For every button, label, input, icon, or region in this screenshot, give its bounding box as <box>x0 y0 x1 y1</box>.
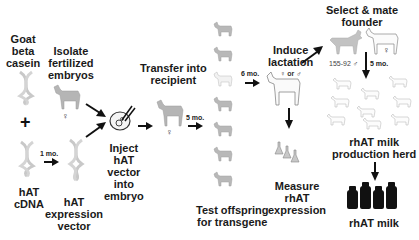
label-line: Test offspring <box>196 204 269 216</box>
plus-sign: + <box>20 112 31 133</box>
dna-helix-icon <box>66 140 86 180</box>
label-line: cDNA <box>14 198 44 210</box>
label-line: Measure <box>268 180 326 192</box>
arrow-right-icon <box>188 122 204 130</box>
duration-label: 5 mo. <box>186 114 204 121</box>
label-rhat-milk: rhAT milk <box>349 217 399 229</box>
label-line: production herd <box>332 148 416 160</box>
label-line: Select & mate <box>326 4 398 16</box>
duration-label: 1 mo. <box>40 150 58 157</box>
flask-icons <box>274 142 304 164</box>
arrow-down-icon <box>370 162 380 182</box>
label-line: hAT <box>104 154 144 166</box>
label-test-offspring: Test offspring for transgene <box>196 204 269 228</box>
milk-bottle-icon <box>347 190 358 209</box>
label-line: embryo <box>104 190 144 202</box>
label-line: recipient <box>140 74 207 86</box>
label-line: Goat <box>6 33 40 45</box>
label-line: rhAT <box>268 192 326 204</box>
arrow-right-icon <box>138 122 154 130</box>
founder-buck-icon <box>328 28 364 58</box>
dna-helix-icon <box>17 142 37 176</box>
arrow-right-icon <box>44 158 60 166</box>
dna-helix-icon <box>16 72 36 104</box>
label-line: vector <box>104 166 144 178</box>
duration-label: 6 mo. <box>241 70 259 77</box>
label-line: founder <box>326 16 398 28</box>
milk-bottle-icon <box>360 186 371 209</box>
label-line: Inject <box>104 142 144 154</box>
embryo-injection-icon <box>108 104 136 132</box>
label-line: into <box>104 178 144 190</box>
label-line: Isolate <box>48 45 94 57</box>
arrow-down-icon <box>284 108 294 130</box>
milk-bottle-icon <box>373 190 384 209</box>
label-hat-cdna: hAT cDNA <box>14 186 44 210</box>
label-production-herd: rhAT milk production herd <box>332 136 416 160</box>
duration-label: 5 mo. <box>370 60 388 67</box>
arrow-up-right-icon <box>86 122 108 138</box>
female-symbol: ♀ <box>62 111 69 121</box>
arrow-up-right-icon <box>302 46 324 64</box>
arrow-down-right-icon <box>86 104 108 118</box>
label-line: embryos <box>48 69 94 81</box>
label-line: rhAT milk <box>332 136 416 148</box>
goat-icon <box>52 85 82 111</box>
label-goat-beta-casein: Goat beta casein <box>6 33 40 69</box>
recipient-goat-icon <box>155 100 185 128</box>
milk-bottle-icon <box>386 186 397 209</box>
label-measure: Measure rhAT expression <box>268 180 326 216</box>
label-line: vector <box>45 220 103 232</box>
label-line: expression <box>268 204 326 216</box>
label-line: casein <box>6 57 40 69</box>
offspring-goats-icon <box>212 22 234 202</box>
label-isolate-embryos: Isolate fertilized embryos <box>48 45 94 81</box>
production-herd-icons <box>330 76 419 128</box>
label-line: beta <box>6 45 40 57</box>
label-line: hAT <box>14 186 44 198</box>
label-line: Transfer into <box>140 62 207 74</box>
label-select-mate: Select & mate founder <box>326 4 398 28</box>
label-line: fertilized <box>48 57 94 69</box>
female-symbol: ♀ <box>383 45 390 55</box>
label-inject: Inject hAT vector into embryo <box>104 142 144 202</box>
female-symbol: ♀ <box>166 127 173 137</box>
arrow-right-icon <box>245 79 261 87</box>
label-line: hAT <box>45 196 103 208</box>
label-line: for transgene <box>196 216 269 228</box>
lactating-goat-icon <box>265 72 303 108</box>
label-hat-expression-vector: hAT expression vector <box>45 196 103 232</box>
offspring-column <box>212 22 234 206</box>
label-line: expression <box>45 208 103 220</box>
label-transfer-recipient: Transfer into recipient <box>140 62 207 86</box>
sex-marker: ♀ or ♂ <box>280 70 301 77</box>
founder-id: 155-92 ♂ <box>329 60 358 67</box>
